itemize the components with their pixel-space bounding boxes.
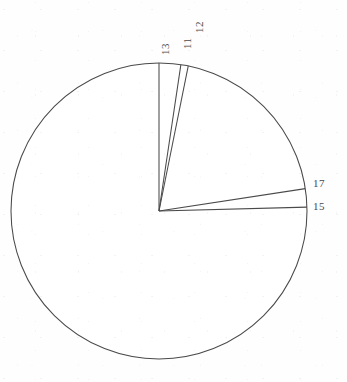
slice-label-15: 15 (313, 201, 325, 212)
pie-chart-svg (0, 0, 347, 382)
pie-chart-figure: 1311121715 (0, 0, 347, 382)
slice-label-12: 12 (194, 21, 205, 33)
slice-label-17: 17 (313, 178, 325, 189)
slice-label-13: 13 (160, 43, 171, 55)
slice-label-11: 11 (182, 38, 193, 49)
